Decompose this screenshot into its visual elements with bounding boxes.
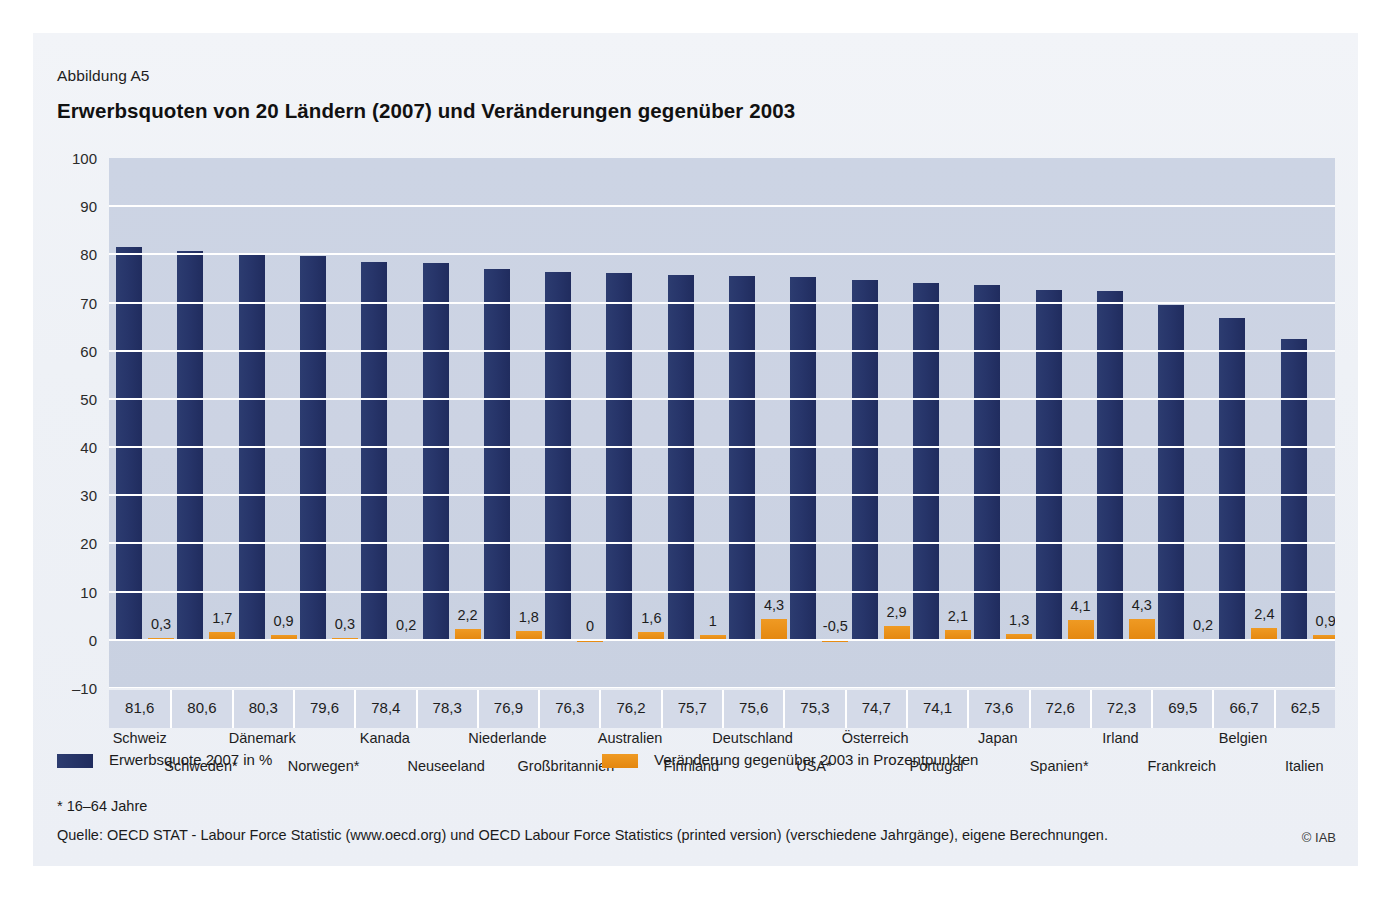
legend-swatch-change (602, 754, 638, 768)
bar-employment-rate (974, 285, 1000, 640)
y-axis-tick: 40 (80, 439, 97, 456)
category-label: Australien (566, 730, 695, 746)
bar-group: 1,7 (170, 158, 231, 688)
category-label: Dänemark (198, 730, 327, 746)
value-cell-text: 66,7 (1214, 699, 1273, 716)
footnote-source: Quelle: OECD STAT - Labour Force Statist… (57, 827, 1108, 843)
value-cell-text: 62,5 (1276, 699, 1335, 716)
value-cell-text: 74,1 (908, 699, 967, 716)
gridline (109, 446, 1335, 448)
bar-group: 2,4 (1212, 158, 1273, 688)
bar-employment-rate (484, 269, 510, 640)
value-cell-text: 75,3 (785, 699, 844, 716)
value-cell: 69,5 (1151, 690, 1212, 728)
footnote-asterisk: * 16–64 Jahre (57, 798, 147, 814)
bar-employment-rate (116, 247, 142, 640)
y-axis-tick: 30 (80, 487, 97, 504)
plot-panel: 0,31,70,90,30,22,21,801,614,3-0,52,92,11… (109, 158, 1335, 688)
gridline (109, 494, 1335, 496)
bar-group: 0,3 (109, 158, 170, 688)
bar-employment-rate (1036, 290, 1062, 640)
y-axis-tick: 90 (80, 198, 97, 215)
y-axis-tick: 80 (80, 246, 97, 263)
category-label: Kanada (320, 730, 449, 746)
category-label: Österreich (811, 730, 940, 746)
bar-employment-rate (1097, 291, 1123, 639)
bar-group: 0,2 (354, 158, 415, 688)
legend-swatch-employment-rate (57, 754, 93, 768)
y-axis-tick: –10 (72, 680, 97, 697)
value-cell-text: 76,9 (479, 699, 538, 716)
bar-group: 1 (661, 158, 722, 688)
value-cell: 79,6 (293, 690, 354, 728)
bar-group: 0,9 (232, 158, 293, 688)
bar-employment-rate (361, 262, 387, 640)
category-label: Frankreich (1117, 758, 1246, 774)
bar-employment-rate (913, 283, 939, 640)
value-cell: 75,3 (783, 690, 844, 728)
bar-group: 4,3 (1090, 158, 1151, 688)
gridline (109, 542, 1335, 544)
bar-employment-rate (852, 280, 878, 640)
value-cell-text: 80,3 (234, 699, 293, 716)
value-cell: 74,1 (906, 690, 967, 728)
value-cell: 72,3 (1090, 690, 1151, 728)
value-cell-text: 74,7 (847, 699, 906, 716)
category-label: Schweiz (75, 730, 204, 746)
category-label: Irland (1056, 730, 1185, 746)
value-cell-text: 76,2 (601, 699, 660, 716)
gridline (109, 302, 1335, 304)
category-label: Japan (933, 730, 1062, 746)
category-label: Deutschland (688, 730, 817, 746)
zero-line (109, 639, 1335, 641)
category-label: Niederlande (443, 730, 572, 746)
value-cell-text: 75,6 (724, 699, 783, 716)
value-cell-text: 78,3 (418, 699, 477, 716)
value-cell: 75,6 (722, 690, 783, 728)
y-axis-tick: 70 (80, 294, 97, 311)
bar-employment-rate (790, 277, 816, 640)
value-cell: 81,6 (109, 690, 170, 728)
bar-group: 2,2 (416, 158, 477, 688)
bar-group: 0,2 (1151, 158, 1212, 688)
gridline (109, 687, 1335, 688)
bar-group: 2,1 (906, 158, 967, 688)
bar-change-value-label: 0,9 (1308, 613, 1335, 629)
bar-group: 1,6 (599, 158, 660, 688)
y-axis-tick: 0 (89, 631, 97, 648)
bar-employment-rate (545, 272, 571, 640)
bar-series-group: 0,31,70,90,30,22,21,801,614,3-0,52,92,11… (109, 158, 1335, 688)
y-axis-tick: 50 (80, 390, 97, 407)
gridline (109, 253, 1335, 255)
value-cell: 72,6 (1029, 690, 1090, 728)
bar-group: 0,3 (293, 158, 354, 688)
gridline (109, 398, 1335, 400)
value-cell-text: 73,6 (969, 699, 1028, 716)
value-cell-text: 69,5 (1153, 699, 1212, 716)
value-cell: 78,4 (354, 690, 415, 728)
value-cell-text: 80,6 (172, 699, 231, 716)
value-cell-text: 76,3 (540, 699, 599, 716)
value-table-row: 81,680,680,379,678,478,376,976,376,275,7… (109, 690, 1335, 728)
category-label: Norwegen* (259, 758, 388, 774)
bar-employment-rate (1158, 305, 1184, 640)
value-cell: 78,3 (416, 690, 477, 728)
chart-area: 1009080706050403020100–10 0,31,70,90,30,… (57, 158, 1335, 735)
category-label: Belgien (1179, 730, 1308, 746)
value-cell: 76,2 (599, 690, 660, 728)
value-cell: 76,3 (538, 690, 599, 728)
category-label: Italien (1240, 758, 1369, 774)
figure-number: Abbildung A5 (57, 67, 150, 85)
bar-employment-rate (1281, 339, 1307, 640)
figure-panel: Abbildung A5 Erwerbsquoten von 20 Länder… (33, 33, 1358, 866)
bar-group: 4,1 (1029, 158, 1090, 688)
legend-label: Erwerbsquote 2007 in % (109, 751, 272, 768)
value-cell-text: 81,6 (109, 699, 170, 716)
y-axis-tick: 20 (80, 535, 97, 552)
gridline (109, 350, 1335, 352)
bar-group: 0 (538, 158, 599, 688)
bar-employment-rate (668, 275, 694, 640)
figure-title: Erwerbsquoten von 20 Ländern (2007) und … (57, 99, 795, 123)
value-cell: 66,7 (1212, 690, 1273, 728)
category-label: Neuseeland (382, 758, 511, 774)
